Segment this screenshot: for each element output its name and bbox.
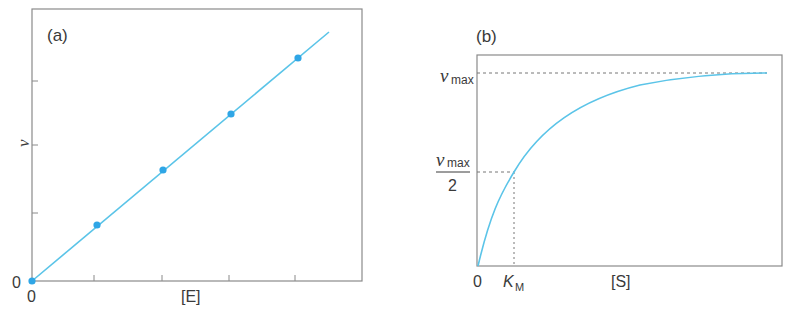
panel-label-b: (b) bbox=[476, 27, 497, 46]
half-vmax-subscript: max bbox=[447, 156, 470, 170]
half-vmax-denominator: 2 bbox=[448, 177, 457, 194]
vmax-subscript: max bbox=[451, 73, 474, 87]
panel-label-a: (a) bbox=[47, 26, 68, 45]
vmax-symbol: v bbox=[440, 65, 449, 86]
x-axis-label-b: [S] bbox=[611, 273, 631, 290]
plot-frame-b bbox=[477, 55, 782, 266]
data-point bbox=[227, 110, 234, 117]
x-axis-label-a: [E] bbox=[181, 288, 201, 305]
linear-fit-line bbox=[32, 32, 329, 281]
panel-b: (b) v max v max 2 0 K M [S] bbox=[436, 27, 782, 293]
data-point bbox=[159, 166, 166, 173]
y-axis-label-a: v bbox=[14, 139, 33, 147]
half-vmax-symbol: v bbox=[436, 149, 445, 170]
data-point bbox=[93, 221, 100, 228]
km-subscript: M bbox=[515, 281, 524, 293]
km-symbol: K bbox=[503, 273, 515, 290]
michaelis-menten-curve bbox=[478, 73, 767, 266]
panel-a: (a) v 0 0 [E] bbox=[12, 9, 362, 305]
x-zero-label-b: 0 bbox=[473, 273, 482, 290]
figure: (a) v 0 0 [E] (b) v max v max 2 0 K M [S… bbox=[0, 0, 792, 335]
data-point bbox=[28, 277, 35, 284]
x-zero-label-a: 0 bbox=[27, 288, 36, 305]
y-zero-label-a: 0 bbox=[12, 274, 21, 291]
data-point bbox=[294, 54, 301, 61]
